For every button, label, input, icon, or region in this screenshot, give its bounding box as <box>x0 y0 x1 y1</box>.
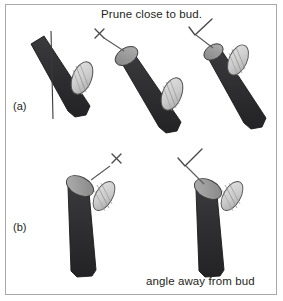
stem-a-2 <box>104 38 187 133</box>
leader-line-x-a <box>104 38 124 51</box>
x-mark-a <box>95 29 104 38</box>
x-mark-b <box>112 154 121 163</box>
stem-b-1 <box>63 166 119 277</box>
angle-away-from-bud-caption: angle away from bud <box>146 275 255 287</box>
check-mark-b <box>178 149 202 166</box>
leader-line-x-b <box>91 166 110 180</box>
bud-b-1 <box>89 178 120 214</box>
prune-close-to-bud-caption: Prune close to bud. <box>101 8 202 20</box>
stem-b-2 <box>186 166 247 277</box>
leader-line-check-a <box>196 35 213 48</box>
leader-line-check-b <box>186 166 204 184</box>
check-mark-a <box>189 19 212 35</box>
figure-illustration <box>0 0 283 301</box>
bud-b-2 <box>217 178 248 214</box>
stem-a-1 <box>31 31 97 119</box>
stem-a-3 <box>196 35 266 129</box>
pruning-figure: Prune close to bud. (a) (b) angle away f… <box>0 0 283 301</box>
panel-a-label: (a) <box>13 100 26 112</box>
panel-b-label: (b) <box>13 221 26 233</box>
